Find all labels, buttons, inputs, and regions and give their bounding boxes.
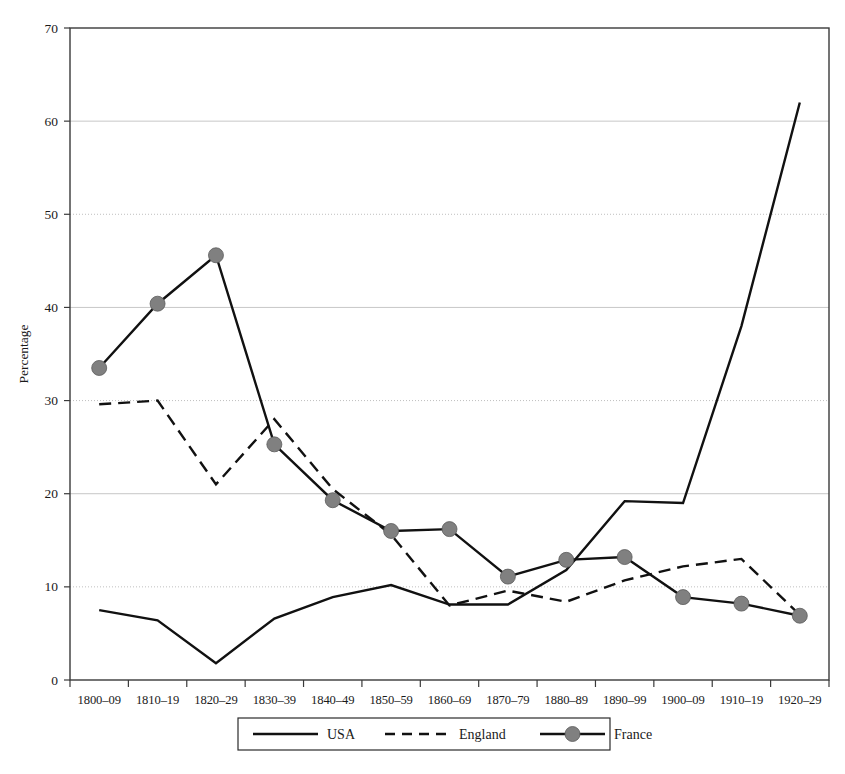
series-marker-france — [559, 552, 574, 567]
x-tick-label: 1880–89 — [545, 693, 588, 707]
series-marker-france — [617, 550, 632, 565]
series-marker-france — [208, 248, 223, 263]
series-marker-france — [442, 522, 457, 537]
x-tick-label: 1850–59 — [369, 693, 412, 707]
y-axis-title: Percentage — [16, 324, 31, 383]
y-tick-label: 10 — [45, 579, 59, 594]
chart-legend: USAEnglandFrance — [238, 718, 652, 750]
x-tick-label: 1900–09 — [661, 693, 704, 707]
y-tick-label: 20 — [45, 486, 59, 501]
series-marker-france — [150, 296, 165, 311]
x-tick-label: 1830–39 — [253, 693, 296, 707]
series-marker-france — [384, 523, 399, 538]
line-chart: 010203040506070 1800–091810–191820–29183… — [0, 0, 845, 774]
x-tick-label: 1870–79 — [486, 693, 529, 707]
x-tick-label: 1920–29 — [778, 693, 821, 707]
series-marker-france — [267, 437, 282, 452]
chart-background — [0, 0, 845, 774]
legend-label-france[interactable]: France — [614, 727, 652, 742]
y-tick-label: 50 — [45, 207, 59, 222]
x-tick-label: 1820–29 — [194, 693, 237, 707]
series-marker-france — [792, 608, 807, 623]
chart-container: 010203040506070 1800–091810–191820–29183… — [0, 0, 845, 774]
legend-marker-france — [565, 727, 580, 742]
legend-label-usa[interactable]: USA — [327, 727, 356, 742]
y-tick-label: 60 — [45, 114, 59, 129]
y-tick-label: 30 — [45, 393, 59, 408]
x-tick-label: 1860–69 — [428, 693, 471, 707]
x-tick-label: 1810–19 — [136, 693, 179, 707]
series-marker-france — [734, 596, 749, 611]
legend-label-england[interactable]: England — [459, 727, 506, 742]
series-marker-france — [500, 569, 515, 584]
series-marker-france — [676, 590, 691, 605]
x-tick-label: 1800–09 — [77, 693, 120, 707]
y-tick-label: 70 — [45, 21, 59, 36]
x-tick-label: 1890–99 — [603, 693, 646, 707]
y-tick-label: 0 — [51, 673, 58, 688]
series-marker-france — [325, 493, 340, 508]
series-marker-france — [92, 360, 107, 375]
x-tick-label: 1840–49 — [311, 693, 354, 707]
y-tick-label: 40 — [45, 300, 59, 315]
x-tick-label: 1910–19 — [720, 693, 763, 707]
